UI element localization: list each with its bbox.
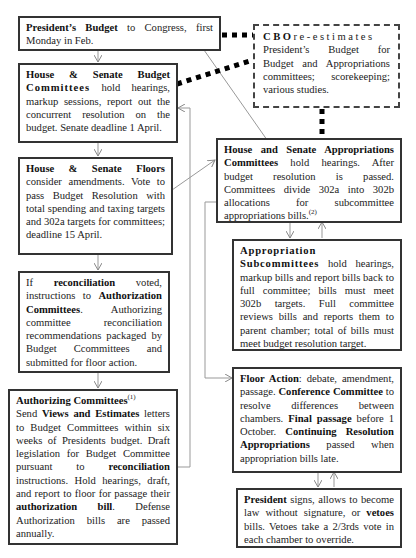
president-signs-box: President signs, allows to become law wi… [236, 488, 402, 548]
floor-action-box: Floor Action: debate, amendment, passage… [232, 367, 402, 473]
floor-action-bold-2: Conference Committee [278, 386, 382, 397]
appropriations-committees-title: House and Senate Appropriations [224, 144, 394, 155]
budget-committees-box: House & Senate Budget Committees hold he… [18, 63, 178, 143]
subcommittees-title: Appropriation Subcommittees [240, 245, 319, 269]
budget-committees-title-2: Committees [26, 82, 90, 93]
floor-action-bold-1: Floor Action [240, 373, 299, 384]
cbo-title: CBO [263, 31, 293, 42]
authorizing-bold-2: reconciliation [108, 461, 170, 472]
footnote-1: (1) [128, 393, 136, 401]
authorizing-text-1: Send [16, 408, 42, 419]
reconciliation-text-1: If [26, 277, 54, 288]
appropriations-committees-box: House and Senate Appropriations Committe… [216, 138, 402, 223]
subcommittees-box: Appropriation Subcommittees hold hearing… [232, 239, 402, 351]
floor-action-bold-3: Final passage [288, 413, 351, 424]
appropriations-committees-title-2: Committees [224, 157, 278, 168]
authorizing-bold-1: Views and Estimates [42, 408, 139, 419]
presidents-budget-title: President’s Budget [26, 22, 118, 33]
authorizing-committees-title: Authorizing Committees [16, 395, 128, 406]
budget-committees-title: House & Senate Budget [26, 69, 170, 80]
reconciliation-bold-1: reconciliation [54, 277, 116, 288]
subcommittees-text: hold hearings, markup bills and report b… [240, 258, 394, 349]
president-signs-bold-2: vetoes [366, 507, 394, 518]
cbo-text: President’s Budget for Budget and Approp… [263, 44, 390, 95]
presidents-budget-box: President’s Budget to Congress, first Mo… [18, 16, 221, 51]
floors-title: House & Senate Floors [26, 163, 165, 174]
floors-box: House & Senate Floors consider amendment… [18, 157, 173, 255]
authorizing-text-3: instructions. Hold hearings, draft, and … [16, 475, 170, 499]
president-signs-bold-1: President [244, 494, 287, 505]
authorizing-committees-box: Authorizing Committees(1) Send Views and… [8, 389, 178, 545]
floors-text: consider amendments. Vote to pass Budget… [26, 176, 165, 240]
cbo-spaced-text: re-estimates [293, 31, 374, 42]
reconciliation-box: If reconciliation voted, instructions to… [18, 271, 170, 373]
footnote-2: (2) [309, 209, 317, 217]
authorizing-bold-3: authorization bill [16, 501, 112, 512]
cbo-box: CBOre-estimates President’s Budget for B… [253, 24, 400, 108]
president-signs-text-2: bills. Vetoes take a 2/3rds vote in each… [244, 521, 394, 545]
